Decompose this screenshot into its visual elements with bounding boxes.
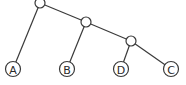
leaf-c: C xyxy=(164,62,179,77)
leaf-c-label: C xyxy=(167,64,175,77)
tree-diagram: A B D C xyxy=(0,0,186,85)
edges xyxy=(13,3,171,69)
leaf-b-label: B xyxy=(63,64,71,77)
root-node xyxy=(35,0,45,8)
leaf-nodes: A B D C xyxy=(6,62,179,77)
edge-n1-n2 xyxy=(86,22,131,41)
edge-root-a xyxy=(13,3,40,69)
leaf-a: A xyxy=(6,62,21,77)
leaf-a-label: A xyxy=(9,64,17,77)
leaf-d-label: D xyxy=(117,64,125,77)
internal-node-1 xyxy=(81,17,91,27)
internal-node-2 xyxy=(126,36,136,46)
leaf-d: D xyxy=(114,62,129,77)
edge-root-n1 xyxy=(40,3,86,22)
leaf-b: B xyxy=(60,62,75,77)
